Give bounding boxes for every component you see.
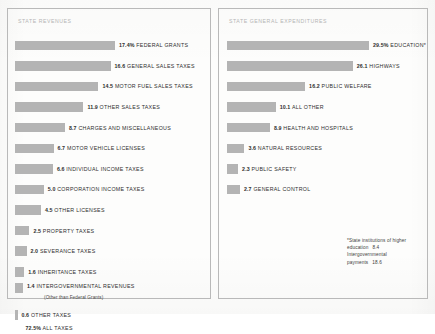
bar-category-name: NATURAL RESOURCES [256, 145, 322, 151]
bar [15, 41, 115, 51]
bar-category-name: MOTOR VEHICLE LICENSES [65, 145, 145, 151]
bar-label: 2.3 PUBLIC SAFETY [242, 166, 297, 172]
bar-category-name: OTHER SALES TAXES [98, 104, 160, 110]
bar-label: 3.6 NATURAL RESOURCES [248, 145, 322, 151]
bar-row: 8.7 CHARGES AND MISCELLANEOUS [8, 117, 210, 138]
bar-row: 1.6 INHERITANCE TAXES [8, 262, 210, 283]
bar-label: 2.0 SEVERANCE TAXES [31, 248, 96, 254]
bar-category-name: MOTOR FUEL SALES TAXES [113, 83, 193, 89]
bar-rows-state-revenues: 17.4% FEDERAL GRANTS16.6 GENERAL SALES T… [8, 35, 210, 334]
bar-category-name: PUBLIC WELFARE [320, 83, 372, 89]
bar [15, 82, 98, 92]
bar-row: 8.9 HEALTH AND HOSPITALS [219, 117, 427, 138]
bar-label: 29.5% EDUCATION* [373, 42, 426, 48]
bar-category-name: GENERAL CONTROL [252, 186, 311, 192]
bar-row: 17.4% FEDERAL GRANTS [8, 35, 210, 56]
bar-label: 4.5 OTHER LICENSES [45, 207, 105, 213]
bar-row: 2.5 PROPERTY TAXES [8, 220, 210, 241]
bar [15, 61, 111, 71]
bar-row: 72.5% ALL TAXES [8, 322, 210, 334]
bar-value: 1.4 [27, 283, 35, 289]
bar-value: 11.9 [87, 104, 97, 110]
bar-value: 1.6 [28, 269, 36, 275]
bar [15, 310, 18, 320]
bar-label: 16.6 GENERAL SALES TAXES [115, 63, 195, 69]
bar-label: 1.4 INTERGOVERNMENTAL REVENUES [27, 283, 135, 289]
bar-value: 14.5 [102, 83, 113, 89]
bar-label: 5.0 CORPORATION INCOME TAXES [48, 186, 145, 192]
bar-category-name: GENERAL SALES TAXES [125, 63, 195, 69]
bar [227, 102, 276, 112]
panel-state-general-expenditures: STATE GENERAL EXPENDITURES 29.5% EDUCATI… [218, 8, 428, 299]
bar-label: 14.5 MOTOR FUEL SALES TAXES [102, 83, 192, 89]
panel-state-revenues: STATE REVENUES 17.4% FEDERAL GRANTS16.6 … [7, 8, 211, 299]
bar-label: 26.1 HIGHWAYS [357, 63, 400, 69]
bar-category-name: ALL TAXES [41, 325, 73, 331]
bar-value: 2.3 [242, 166, 250, 172]
bar [15, 123, 65, 133]
bar-value: 17.4% [119, 42, 135, 48]
bar-category-name: INHERITANCE TAXES [36, 269, 97, 275]
footnote-line-4-label: payments [347, 260, 368, 265]
bar-row: 16.2 PUBLIC WELFARE [219, 76, 427, 97]
bar-value: 4.5 [45, 207, 53, 213]
footnote-line-4: payments18.6 [347, 259, 425, 266]
bar-row: 3.6 NATURAL RESOURCES [219, 138, 427, 159]
bar-category-name: PROPERTY TAXES [41, 228, 94, 234]
bar-category-name: SEVERANCE TAXES [38, 248, 95, 254]
footnote-line-4-value: 18.6 [372, 260, 382, 265]
bar-value: 2.5 [33, 228, 41, 234]
bar [227, 123, 270, 133]
bar-label: 2.7 GENERAL CONTROL [244, 186, 310, 192]
bar-label: 11.9 OTHER SALES TAXES [87, 104, 160, 110]
bar-value: 26.1 [357, 63, 368, 69]
bar [227, 164, 238, 174]
bar-value: 2.7 [244, 186, 252, 192]
bar-value: 10.1 [280, 104, 291, 110]
bar [15, 226, 29, 236]
bar [15, 102, 83, 112]
bar [15, 246, 27, 256]
bar-row: 29.5% EDUCATION* [219, 35, 427, 56]
bar-value: 8.7 [69, 125, 77, 131]
bar [15, 205, 41, 215]
bar-row: 6.6 INDIVIDUAL INCOME TAXES [8, 159, 210, 180]
bar [227, 41, 369, 51]
bar-category-name: PUBLIC SAFETY [250, 166, 297, 172]
bar-category-name: HEALTH AND HOSPITALS [282, 125, 353, 131]
bar-value: 16.2 [309, 83, 320, 89]
bar-category-name: INDIVIDUAL INCOME TAXES [65, 166, 144, 172]
bar-value: 16.6 [115, 63, 126, 69]
footnote-line-2-label: education [347, 245, 368, 250]
bar-label: 16.2 PUBLIC WELFARE [309, 83, 372, 89]
bar-row: 11.9 OTHER SALES TAXES [8, 97, 210, 118]
bar-row: 5.0 CORPORATION INCOME TAXES [8, 179, 210, 200]
bar-label: 10.1 ALL OTHER [280, 104, 324, 110]
footnote-line-2-value: 8.4 [372, 245, 379, 250]
bar [15, 144, 54, 154]
bar-row: 2.7 GENERAL CONTROL [219, 179, 427, 200]
bar [15, 185, 44, 195]
bar-label: 1.6 INHERITANCE TAXES [28, 269, 96, 275]
bar [227, 61, 353, 71]
bar [227, 144, 244, 154]
bar-value: 72.5% [26, 325, 42, 331]
bar-label: 2.5 PROPERTY TAXES [33, 228, 94, 234]
bar-row: 2.0 SEVERANCE TAXES [8, 241, 210, 262]
bar-value: 3.6 [248, 145, 256, 151]
bar-label: 6.7 MOTOR VEHICLE LICENSES [58, 145, 145, 151]
bar-label: 0.6 OTHER TAXES [22, 312, 72, 318]
bar-rows-state-general-expenditures: 29.5% EDUCATION*26.1 HIGHWAYS16.2 PUBLIC… [219, 35, 427, 200]
bar-category-name: OTHER LICENSES [53, 207, 105, 213]
footnote-line-3: Intergovernmental [347, 251, 425, 258]
bar-row: 2.3 PUBLIC SAFETY [219, 159, 427, 180]
bar-label: 17.4% FEDERAL GRANTS [119, 42, 188, 48]
bar [15, 283, 23, 293]
bar [15, 267, 24, 277]
bar [15, 164, 53, 174]
bar-value: 6.6 [57, 166, 65, 172]
bar-category-name: EDUCATION* [389, 42, 427, 48]
bar-sub-note: (Other than Federal Grants) [44, 295, 103, 300]
bar-label: 72.5% ALL TAXES [26, 325, 73, 331]
